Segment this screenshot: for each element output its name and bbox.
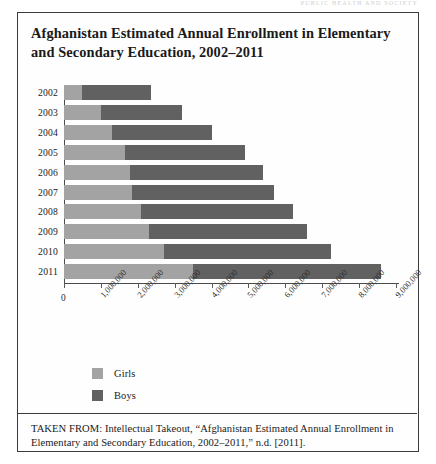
bar-row [64,105,182,120]
bar-segment-girls [64,105,101,120]
source-note: TAKEN FROM: Intellectual Takeout, “Afgha… [31,422,405,451]
bar-row [64,85,151,100]
bar-segment-girls [64,165,130,180]
bar-segment-girls [64,145,125,160]
bar-segment-boys [164,244,332,259]
y-axis-label-2006: 2006 [18,167,58,178]
figure-divider [18,413,417,414]
bar-segment-boys [130,165,263,180]
y-axis-label-2011: 2011 [18,266,58,277]
bar-segment-girls [64,204,141,219]
bar-segment-boys [193,264,381,279]
bar-row [64,244,331,259]
bar-segment-girls [64,125,112,140]
bar-segment-girls [64,264,193,279]
bar-segment-girls [64,185,132,200]
bar-row [64,185,274,200]
legend-swatch-boys [92,390,103,401]
y-axis-label-2008: 2008 [18,206,58,217]
y-axis-label-2004: 2004 [18,127,58,138]
legend-swatch-girls [92,368,103,379]
x-axis-tick-label: 0 [61,293,66,303]
bar-segment-boys [125,145,245,160]
bar-segment-boys [149,224,308,239]
y-axis-label-2010: 2010 [18,246,58,257]
bar-segment-boys [112,125,212,140]
legend-label: Girls [114,368,136,379]
bar-chart: 2002200320042005200620072008200920102011… [18,75,418,355]
figure-container: Afghanistan Estimated Annual Enrollment … [17,12,419,452]
bar-row [64,125,212,140]
figure-title: Afghanistan Estimated Annual Enrollment … [31,24,403,63]
bar-segment-boys [132,185,274,200]
y-axis-label-2009: 2009 [18,226,58,237]
bar-row [64,145,245,160]
chart-legend: GirlsBoys [92,365,136,409]
page-header-strip: PUBLIC HEALTH AND SOCIETY [0,0,436,10]
x-axis-tick [64,283,65,288]
bar-segment-girls [64,85,82,100]
y-axis-label-2007: 2007 [18,187,58,198]
bar-row [64,204,293,219]
bar-segment-boys [82,85,150,100]
bar-segment-boys [141,204,292,219]
legend-item: Boys [92,387,136,404]
y-axis-label-2002: 2002 [18,87,58,98]
bar-segment-boys [101,105,182,120]
legend-label: Boys [114,390,136,401]
legend-item: Girls [92,365,136,382]
bar-row [64,224,307,239]
y-axis-label-2003: 2003 [18,107,58,118]
running-head: PUBLIC HEALTH AND SOCIETY [301,0,418,6]
y-axis-label-2005: 2005 [18,147,58,158]
bar-row [64,165,263,180]
bar-segment-girls [64,244,164,259]
bar-segment-girls [64,224,149,239]
